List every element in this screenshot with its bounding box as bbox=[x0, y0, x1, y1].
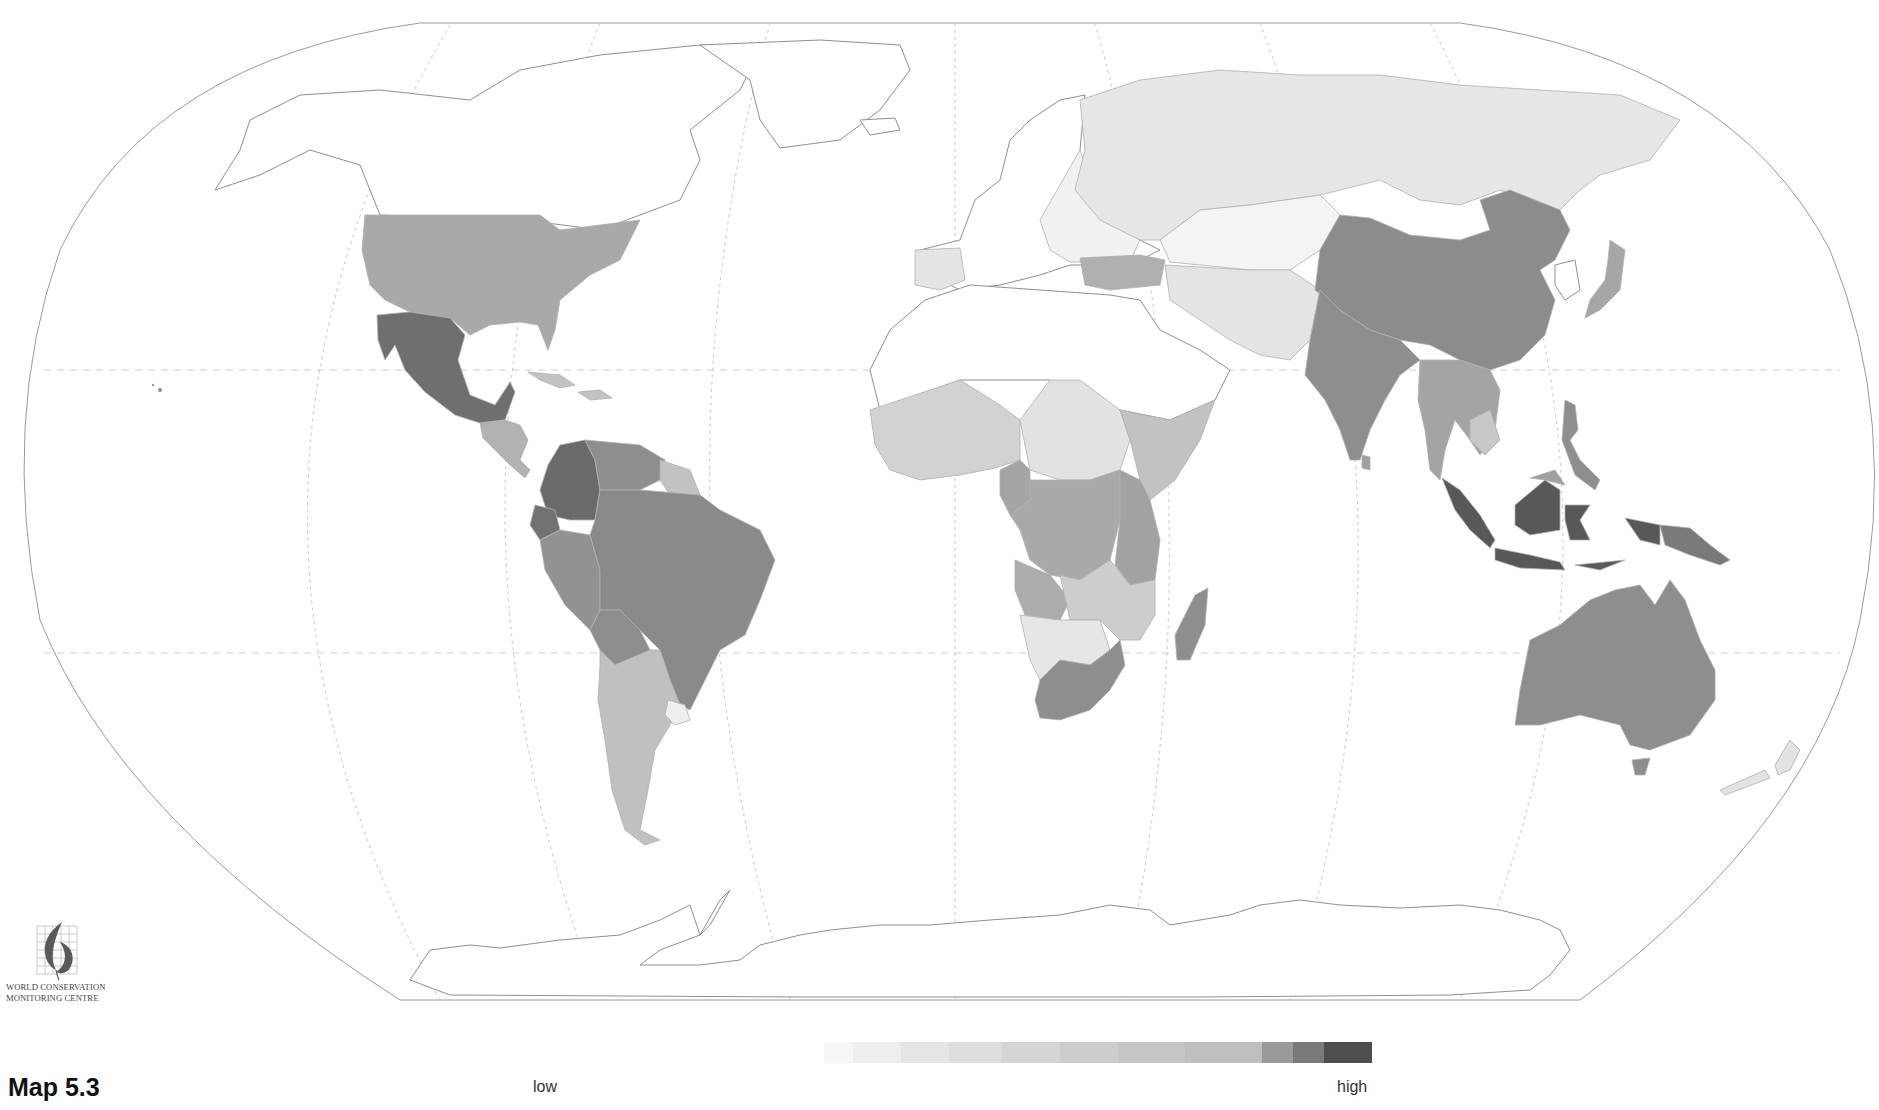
legend-step bbox=[1262, 1042, 1293, 1063]
legend-step bbox=[1002, 1042, 1060, 1063]
map-caption: Map 5.3 bbox=[8, 1073, 100, 1102]
legend-low-label: low bbox=[533, 1078, 557, 1096]
legend-step bbox=[949, 1042, 1002, 1063]
legend-step bbox=[1185, 1042, 1262, 1063]
wcmc-leaf-icon bbox=[34, 922, 80, 980]
world-map bbox=[0, 0, 1879, 1010]
legend-step bbox=[853, 1042, 901, 1063]
logo-line-1: WORLD CONSERVATION bbox=[6, 982, 118, 993]
legend-color-scale bbox=[795, 1042, 1372, 1063]
legend-step bbox=[1324, 1042, 1372, 1063]
region-sri-lanka bbox=[1362, 455, 1370, 470]
legend-step bbox=[1060, 1042, 1118, 1063]
legend-step bbox=[1293, 1042, 1324, 1063]
legend-step bbox=[824, 1042, 853, 1063]
legend-step bbox=[1118, 1042, 1185, 1063]
legend-step bbox=[795, 1042, 824, 1063]
region-turkey bbox=[1080, 255, 1165, 290]
logo-line-2: MONITORING CENTRE bbox=[6, 993, 118, 1004]
legend-high-label: high bbox=[1337, 1078, 1367, 1096]
region-hawaii bbox=[158, 388, 162, 392]
wcmc-logo: WORLD CONSERVATION MONITORING CENTRE bbox=[6, 922, 118, 1004]
legend-step bbox=[901, 1042, 949, 1063]
